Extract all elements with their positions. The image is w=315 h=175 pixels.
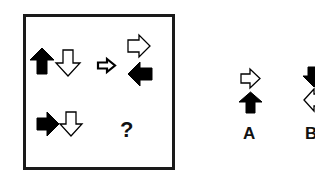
white-down-arrow-icon xyxy=(56,50,80,76)
puzzle-frame xyxy=(23,14,175,170)
option-a-label[interactable]: A xyxy=(243,124,255,144)
white-down-arrow-icon xyxy=(60,112,82,136)
missing-answer-symbol: ? xyxy=(120,117,133,143)
option-b-label[interactable]: B xyxy=(305,124,315,144)
option-a-white-right-arrow-icon xyxy=(240,69,261,88)
option-b-white-left-arrow-icon xyxy=(304,88,315,112)
option-b-black-down-arrow-icon xyxy=(303,67,315,87)
transform-arrow-icon xyxy=(97,58,116,73)
black-right-arrow-icon xyxy=(37,112,59,136)
option-a-black-up-arrow-icon xyxy=(239,92,262,113)
black-up-arrow-icon xyxy=(30,48,54,74)
white-right-arrow-icon xyxy=(127,35,151,57)
black-left-arrow-icon xyxy=(128,62,152,86)
